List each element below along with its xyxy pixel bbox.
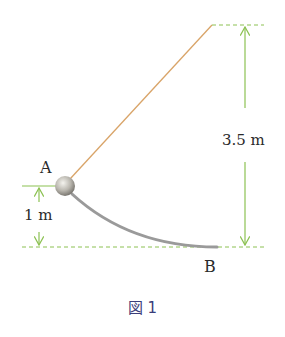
label-height-top: 3.5 m — [222, 131, 265, 149]
label-height-ball: 1 m — [24, 206, 53, 224]
physics-diagram: A B 1 m 3.5 m 図 1 — [0, 0, 285, 337]
curved-track — [72, 194, 217, 247]
label-point-a: A — [40, 158, 52, 177]
ball — [55, 176, 75, 196]
label-point-b: B — [204, 257, 216, 276]
figure-caption: 図 1 — [0, 296, 285, 317]
rope-line — [70, 25, 212, 179]
